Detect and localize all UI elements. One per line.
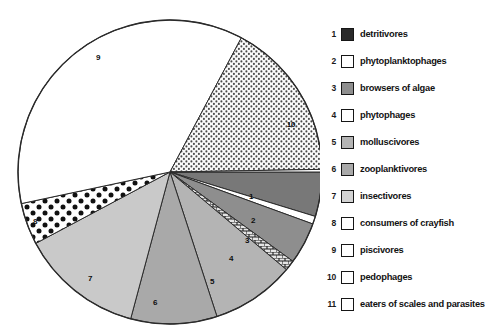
- legend-label-7: insectivores: [360, 191, 411, 201]
- legend-item-1[interactable]: 1detritivores: [320, 22, 408, 46]
- legend-label-9: piscivores: [360, 245, 404, 255]
- legend-index-5: 5: [320, 137, 336, 147]
- legend-swatch-2: [341, 55, 354, 68]
- legend-label-1: detritivores: [360, 29, 408, 39]
- chart-legend: 1detritivores2phytoplanktophages3browser…: [320, 0, 481, 336]
- legend-label-4: phytophages: [360, 110, 415, 120]
- pie-slices-group: [18, 20, 320, 324]
- legend-swatch-6: [341, 163, 354, 176]
- legend-label-3: browsers of algae: [360, 83, 435, 93]
- legend-label-11: eaters of scales and parasites: [360, 299, 485, 309]
- legend-item-2[interactable]: 2phytoplanktophages: [320, 49, 446, 73]
- legend-index-3: 3: [320, 83, 336, 93]
- legend-item-4[interactable]: 4phytophages: [320, 103, 415, 127]
- legend-index-9: 9: [320, 245, 336, 255]
- legend-swatch-7: [341, 190, 354, 203]
- legend-index-10: 10: [320, 272, 336, 282]
- legend-item-6[interactable]: 6zooplanktivores: [320, 157, 427, 181]
- legend-label-6: zooplanktivores: [360, 164, 427, 174]
- legend-label-5: molluscivores: [360, 137, 419, 147]
- legend-label-10: pedophages: [360, 272, 412, 282]
- legend-item-9[interactable]: 9piscivores: [320, 238, 404, 262]
- legend-swatch-1: [341, 28, 354, 41]
- legend-index-8: 8: [320, 218, 336, 228]
- legend-item-3[interactable]: 3browsers of algae: [320, 76, 435, 100]
- pie-chart-area: 12345678910: [0, 0, 320, 336]
- legend-swatch-4: [341, 109, 354, 122]
- legend-swatch-5: [341, 136, 354, 149]
- legend-item-7[interactable]: 7insectivores: [320, 184, 411, 208]
- legend-index-4: 4: [320, 110, 336, 120]
- legend-swatch-3: [341, 82, 354, 95]
- legend-index-7: 7: [320, 191, 336, 201]
- legend-item-10[interactable]: 10pedophages: [320, 265, 412, 289]
- legend-item-11[interactable]: 11eaters of scales and parasites: [320, 292, 485, 316]
- pie-chart-svg: [0, 0, 320, 336]
- legend-swatch-8: [341, 217, 354, 230]
- legend-label-2: phytoplanktophages: [360, 56, 446, 66]
- legend-label-8: consumers of crayfish: [360, 218, 454, 228]
- legend-index-2: 2: [320, 56, 336, 66]
- legend-swatch-10: [341, 271, 354, 284]
- legend-item-5[interactable]: 5molluscivores: [320, 130, 419, 154]
- legend-swatch-9: [341, 244, 354, 257]
- legend-swatch-11: [341, 298, 354, 311]
- legend-index-6: 6: [320, 164, 336, 174]
- legend-item-8[interactable]: 8consumers of crayfish: [320, 211, 454, 235]
- legend-index-1: 1: [320, 29, 336, 39]
- legend-index-11: 11: [320, 299, 336, 309]
